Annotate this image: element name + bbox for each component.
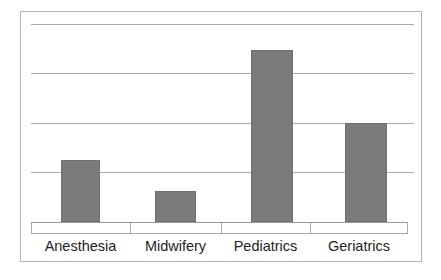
- category-label-geriatrics: Geriatrics: [310, 236, 408, 256]
- category-label-anesthesia: Anesthesia: [31, 236, 130, 256]
- bar-anesthesia[interactable]: [61, 160, 100, 222]
- gridline-top: [31, 24, 414, 25]
- category-label-midwifery: Midwifery: [130, 236, 221, 256]
- gridline-3: [31, 73, 414, 74]
- axis-tick-rail: [31, 233, 408, 234]
- bar-pediatrics[interactable]: [251, 50, 293, 222]
- category-label-pediatrics: Pediatrics: [221, 236, 310, 256]
- bar-midwifery[interactable]: [155, 191, 196, 222]
- bar-geriatrics[interactable]: [345, 123, 387, 222]
- x-axis-line: [31, 222, 408, 223]
- bar-chart-figure: Anesthesia Midwifery Pediatrics Geriatri…: [0, 0, 441, 280]
